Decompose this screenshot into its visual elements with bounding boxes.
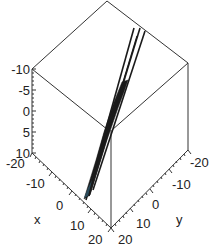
y-tick-label: 10 [136,216,150,231]
x-tick-label: 0 [56,198,63,213]
z-tick-label: -5 [18,83,30,98]
y-tick-label: 0 [152,197,159,212]
z-tick-label: -10 [11,62,30,77]
y-axis-title: y [176,212,183,227]
x-tick-labels: -20 -10 0 10 20 x [6,156,102,246]
z-tick-label: 5 [23,125,30,140]
x-axis-title: x [34,212,41,227]
y-tick-label: 20 [118,232,132,246]
y-tick-labels: -20 -10 0 10 20 y [118,155,209,246]
plot-3d[interactable]: -10 -5 0 5 10 -20 -10 0 10 20 x [0,0,212,246]
x-tick-label: -20 [6,156,25,171]
y-tick-label: -10 [172,177,191,192]
x-tick-label: -10 [26,176,45,191]
z-tick-label: 0 [23,104,30,119]
z-tick-labels: -10 -5 0 5 10 [11,62,30,161]
z-axis [32,69,36,153]
curve-ribbon [84,28,145,200]
x-tick-label: 10 [70,218,84,233]
y-tick-label: -20 [190,155,209,170]
x-tick-label: 20 [88,232,102,246]
